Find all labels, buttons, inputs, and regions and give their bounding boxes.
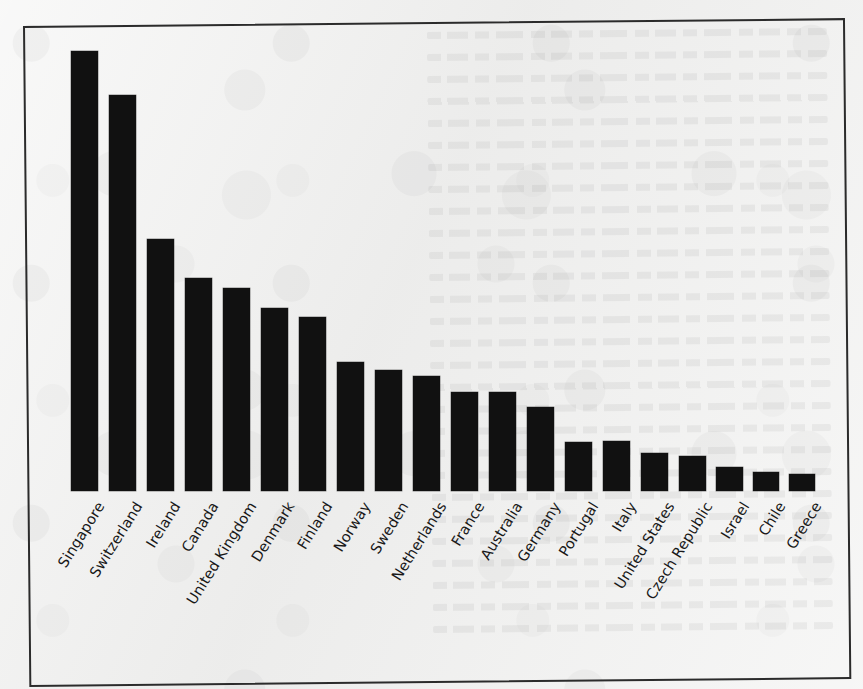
bar <box>527 407 554 491</box>
x-tick-label: Israel <box>718 499 753 542</box>
bar <box>716 467 743 491</box>
x-tick-label: United Kingdom <box>184 499 260 607</box>
bar <box>185 278 212 491</box>
bar <box>789 474 815 491</box>
x-tick-label: Finland <box>294 499 335 552</box>
bar <box>71 51 98 491</box>
x-tick-label: Chile <box>756 499 789 539</box>
bar <box>641 453 668 491</box>
bar <box>337 362 364 491</box>
x-tick-label: Greece <box>783 499 824 552</box>
bar-chart: SingaporeSwitzerlandIrelandCanadaUnited … <box>0 0 863 689</box>
bar <box>223 288 250 491</box>
scanned-page: SingaporeSwitzerlandIrelandCanadaUnited … <box>0 0 863 689</box>
bar <box>603 441 630 491</box>
bar <box>565 442 592 491</box>
bar <box>147 239 174 491</box>
bar <box>299 317 326 491</box>
bar <box>109 95 136 491</box>
x-tick-label: Italy <box>609 499 640 535</box>
bar <box>753 472 779 491</box>
bar <box>261 308 288 491</box>
x-tick-label: France <box>448 499 487 549</box>
bar <box>413 376 440 491</box>
bar <box>679 456 706 491</box>
x-tick-label: Ireland <box>143 499 184 551</box>
bar <box>375 370 402 491</box>
bar <box>489 392 516 491</box>
bar <box>451 392 478 491</box>
